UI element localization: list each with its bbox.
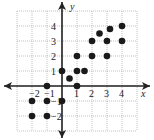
y-tick-label: −2 [51,111,62,122]
y-tick-label: 1 [51,66,56,77]
data-point [104,38,111,45]
x-axis-label: x [140,88,146,99]
data-point [44,113,51,120]
data-point [107,26,114,33]
y-axis-label: y [69,1,75,12]
x-tick-label: 2 [89,88,94,99]
data-point [74,83,81,90]
data-point [104,53,111,60]
data-point [89,53,96,60]
data-point [44,83,51,90]
data-point [89,38,96,45]
x-tick-label: 4 [119,88,124,99]
y-tick-label: 2 [51,51,56,62]
data-point [96,30,103,37]
data-point [29,98,36,105]
data-point [66,75,73,82]
data-point [29,113,36,120]
data-point [119,38,126,45]
data-point [59,68,66,75]
data-point [59,98,66,105]
data-point [119,23,126,30]
data-point [44,98,51,105]
scatter-chart: y x −2−11234−2−11234 [0,0,154,140]
x-tick-label: 3 [104,88,109,99]
y-tick-label: 4 [51,21,56,32]
data-point [81,68,88,75]
x-tick-label: 1 [74,88,79,99]
y-tick-label: 3 [51,36,56,47]
data-point [74,68,81,75]
x-tick-label: −2 [29,88,40,99]
data-point [74,53,81,60]
